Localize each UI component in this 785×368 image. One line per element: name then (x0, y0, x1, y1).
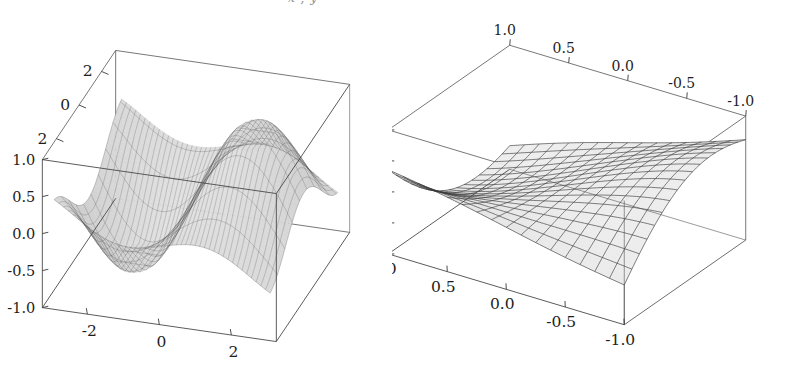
left-plot-svg: 1.00.50.0-0.5-1.0-202202 (0, 0, 392, 368)
right-x-bottom-tick-label: 0.5 (431, 278, 456, 296)
right-x-bottom-tick-label: -0.5 (546, 313, 576, 331)
right-x-top-tick-label: 0.5 (553, 40, 575, 56)
right-surface-mesh (392, 140, 746, 285)
right-plot-svg: 210-1-21.00.50.0-0.5-1.01.00.50.0-0.5-1.… (392, 0, 785, 368)
left-z-tick-label: -0.5 (7, 263, 35, 279)
left-y-tick-label: 2 (83, 62, 93, 80)
right-surface-plot: 210-1-21.00.50.0-0.5-1.01.00.50.0-0.5-1.… (392, 0, 785, 368)
left-y-tick-label: 2 (38, 130, 48, 148)
figure-canvas: x , y 1.00.50.0-0.5-1.0-202202 210-1-21.… (0, 0, 785, 368)
left-z-tick-label: 0.5 (12, 189, 35, 205)
left-x-tick-label: 0 (156, 333, 166, 351)
left-surface-mesh (54, 99, 338, 293)
left-surface-plot: 1.00.50.0-0.5-1.0-202202 (0, 0, 392, 368)
right-x-bottom-tick-label: -1.0 (605, 331, 635, 349)
right-x-top-tick-label: 0.0 (612, 58, 634, 74)
left-z-tick-label: 0.0 (12, 226, 35, 242)
left-z-tick-label: -1.0 (7, 300, 35, 316)
left-z-tick-label: 1.0 (12, 152, 35, 168)
left-x-tick-label: -2 (82, 322, 97, 340)
right-x-top-tick-label: -1.0 (727, 93, 754, 109)
right-x-bottom-tick-label: 0.0 (490, 295, 515, 313)
right-x-bottom-tick-label: 1.0 (392, 260, 397, 278)
right-x-top-tick-label: -0.5 (668, 75, 695, 91)
left-y-tick-label: 0 (60, 96, 70, 114)
right-x-top-tick-label: 1.0 (494, 22, 516, 38)
left-x-tick-label: 2 (228, 343, 238, 361)
